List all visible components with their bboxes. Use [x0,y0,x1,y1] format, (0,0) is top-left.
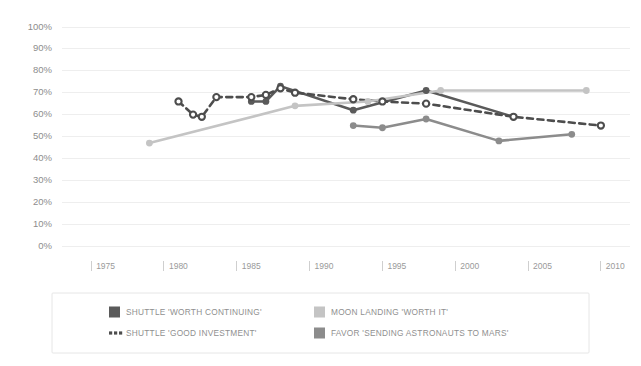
y-axis-tick-label: 100% [28,21,53,32]
y-axis-tick-label: 60% [33,108,53,119]
legend-item[interactable]: SHUTTLE 'WORTH CONTINUING' [109,307,262,318]
legend-swatch-square [314,328,325,339]
legend-swatch-dashes [114,331,117,334]
legend-box [52,293,589,353]
data-point-shuttle_good_investment [423,101,429,107]
y-axis-tick-label: 80% [33,64,53,75]
legend-swatch-dashes [119,331,122,334]
data-point-shuttle_good_investment [350,96,356,102]
x-axis-tick-label: 1990 [315,261,334,271]
legend-item[interactable]: SHUTTLE 'GOOD INVESTMENT' [109,328,257,338]
x-axis-tick-label: 1985 [242,261,261,271]
data-point-moon_landing_worth_it [583,87,590,94]
legend-item[interactable]: MOON LANDING 'WORTH IT' [314,307,448,318]
x-axis-tick-label: 2005 [533,261,552,271]
data-point-moon_landing_worth_it [437,87,444,94]
y-axis-tick-label: 40% [33,152,53,163]
data-point-moon_landing_worth_it [292,102,299,109]
legend-item-label: SHUTTLE 'GOOD INVESTMENT' [126,328,257,338]
data-point-shuttle_worth_continuing [423,87,430,94]
data-point-shuttle_worth_continuing [350,107,357,114]
x-axis-tick-label: 2010 [606,261,625,271]
data-point-favor_astronauts_to_mars [423,116,430,123]
y-axis-tick-label: 90% [33,42,53,53]
y-axis-tick-label: 0% [38,240,52,251]
y-axis-tick-label: 10% [33,218,53,229]
x-axis-tick-label: 1975 [96,261,115,271]
y-axis-tick-label: 20% [33,196,53,207]
data-point-moon_landing_worth_it [364,98,371,105]
line-chart: 0%10%20%30%40%50%60%70%80%90%100% 197519… [0,0,641,366]
data-point-favor_astronauts_to_mars [350,122,357,129]
data-point-shuttle_good_investment [213,94,219,100]
data-point-favor_astronauts_to_mars [496,137,503,144]
data-point-moon_landing_worth_it [146,140,153,147]
legend-swatch-dashes [109,331,112,334]
x-axis-tick-label: 1995 [387,261,406,271]
legend-item-label: MOON LANDING 'WORTH IT' [331,307,448,317]
x-axis-tick-label: 2000 [460,261,479,271]
data-point-shuttle_good_investment [190,112,196,118]
data-point-shuttle_good_investment [379,98,385,104]
legend-item-label: SHUTTLE 'WORTH CONTINUING' [126,307,262,317]
legend-swatch-square [314,307,325,318]
data-point-shuttle_good_investment [510,114,516,120]
x-axis-tick-label: 1980 [169,261,188,271]
data-point-shuttle_good_investment [277,85,283,91]
legend-swatch-square [109,307,120,318]
data-point-shuttle_good_investment [175,98,181,104]
data-point-shuttle_good_investment [263,92,269,98]
legend-item-label: FAVOR 'SENDING ASTRONAUTS TO MARS' [331,328,509,338]
data-point-shuttle_good_investment [292,90,298,96]
legend-item[interactable]: FAVOR 'SENDING ASTRONAUTS TO MARS' [314,328,509,339]
data-point-favor_astronauts_to_mars [568,131,575,138]
data-point-shuttle_good_investment [199,114,205,120]
chart-container: 0%10%20%30%40%50%60%70%80%90%100% 197519… [0,0,641,366]
legend: SHUTTLE 'WORTH CONTINUING'MOON LANDING '… [52,293,589,353]
y-axis-tick-label: 70% [33,86,53,97]
data-point-shuttle_worth_continuing [262,98,269,105]
data-point-shuttle_good_investment [248,94,254,100]
data-point-shuttle_good_investment [598,122,604,128]
y-axis-tick-label: 30% [33,174,53,185]
y-axis-tick-label: 50% [33,130,53,141]
data-point-favor_astronauts_to_mars [379,124,386,131]
